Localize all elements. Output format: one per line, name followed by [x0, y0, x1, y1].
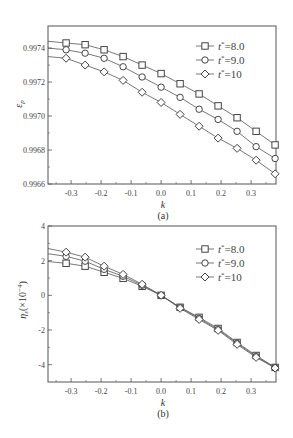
square-marker-icon	[63, 40, 69, 46]
x-axis-label: k	[161, 397, 166, 408]
y-tick-label: 0.9972	[23, 78, 45, 87]
y-tick-label: 0	[41, 291, 45, 300]
square-marker-icon	[120, 53, 126, 59]
panel-caption: (a)	[157, 210, 168, 222]
y-tick-label: 2	[41, 257, 45, 266]
square-marker-icon	[177, 81, 183, 87]
diamond-marker-icon	[176, 110, 184, 118]
x-tick-label: -0.3	[65, 189, 78, 198]
legend-label: t*=10	[218, 271, 242, 283]
diamond-marker-icon	[201, 273, 209, 281]
chart-panel-a: -0.3-0.2-0.10.00.10.20.30.99660.99680.99…	[13, 26, 279, 222]
diamond-marker-icon	[81, 61, 89, 69]
diamond-marker-icon	[233, 144, 241, 152]
square-marker-icon	[202, 246, 208, 252]
y-tick-label: 0.9970	[23, 112, 45, 121]
y-axis-label: ηε(×10−4)	[16, 281, 30, 319]
diamond-marker-icon	[119, 76, 127, 84]
diamond-marker-icon	[195, 122, 203, 130]
circle-marker-icon	[196, 106, 202, 112]
circle-marker-icon	[120, 64, 126, 70]
circle-marker-icon	[272, 155, 278, 161]
square-marker-icon	[158, 70, 164, 76]
circle-marker-icon	[101, 55, 107, 61]
square-marker-icon	[234, 115, 240, 121]
chart-panel-b: -0.3-0.2-0.10.00.10.20.3-4-2024t*=8.0t*=…	[16, 222, 279, 420]
diamond-marker-icon	[157, 98, 165, 106]
x-tick-label: -0.3	[65, 387, 78, 396]
square-marker-icon	[82, 41, 88, 47]
circle-marker-icon	[63, 47, 69, 53]
x-tick-label: 0.0	[156, 387, 166, 396]
x-tick-label: -0.1	[125, 189, 138, 198]
diamond-marker-icon	[138, 88, 146, 96]
x-tick-label: 0.3	[246, 387, 256, 396]
legend-label: t*=8.0	[218, 40, 245, 52]
circle-marker-icon	[139, 74, 145, 80]
square-marker-icon	[196, 91, 202, 97]
x-tick-label: 0.3	[246, 189, 256, 198]
x-tick-label: 0.2	[216, 387, 226, 396]
y-axis-label: εp	[13, 100, 26, 108]
circle-marker-icon	[253, 143, 259, 149]
diamond-marker-icon	[252, 156, 260, 164]
x-tick-label: -0.2	[95, 387, 108, 396]
diamond-marker-icon	[201, 70, 209, 78]
circle-marker-icon	[215, 116, 221, 122]
circle-marker-icon	[202, 57, 208, 63]
square-marker-icon	[139, 62, 145, 68]
circle-marker-icon	[82, 50, 88, 56]
y-tick-label: 4	[41, 222, 45, 231]
square-marker-icon	[63, 260, 69, 266]
x-tick-label: -0.1	[125, 387, 138, 396]
square-marker-icon	[253, 128, 259, 134]
x-axis-label: k	[161, 199, 166, 210]
x-tick-label: 0.1	[186, 189, 196, 198]
x-tick-label: 0.0	[156, 189, 166, 198]
figure: -0.3-0.2-0.10.00.10.20.30.99660.99680.99…	[0, 0, 293, 438]
circle-marker-icon	[234, 128, 240, 134]
circle-marker-icon	[202, 260, 208, 266]
circle-marker-icon	[158, 84, 164, 90]
diamond-marker-icon	[100, 68, 108, 76]
x-tick-label: 0.1	[186, 387, 196, 396]
legend-label: t*=9.0	[218, 257, 245, 269]
y-tick-label: 0.9974	[23, 44, 45, 53]
x-tick-label: 0.2	[216, 189, 226, 198]
legend-label: t*=9.0	[218, 54, 245, 66]
panel-caption: (b)	[157, 408, 169, 420]
circle-marker-icon	[177, 94, 183, 100]
y-tick-label: -4	[38, 361, 45, 370]
diamond-marker-icon	[62, 54, 70, 62]
y-tick-label: 0.9966	[23, 180, 45, 189]
square-marker-icon	[202, 43, 208, 49]
diamond-marker-icon	[271, 170, 279, 178]
square-marker-icon	[215, 103, 221, 109]
legend-label: t*=8.0	[218, 243, 245, 255]
square-marker-icon	[101, 47, 107, 53]
square-marker-icon	[272, 142, 278, 148]
x-tick-label: -0.2	[95, 189, 108, 198]
y-tick-label: 0.9968	[23, 146, 45, 155]
legend-label: t*=10	[218, 68, 242, 80]
y-tick-label: -2	[38, 326, 45, 335]
diamond-marker-icon	[214, 134, 222, 142]
